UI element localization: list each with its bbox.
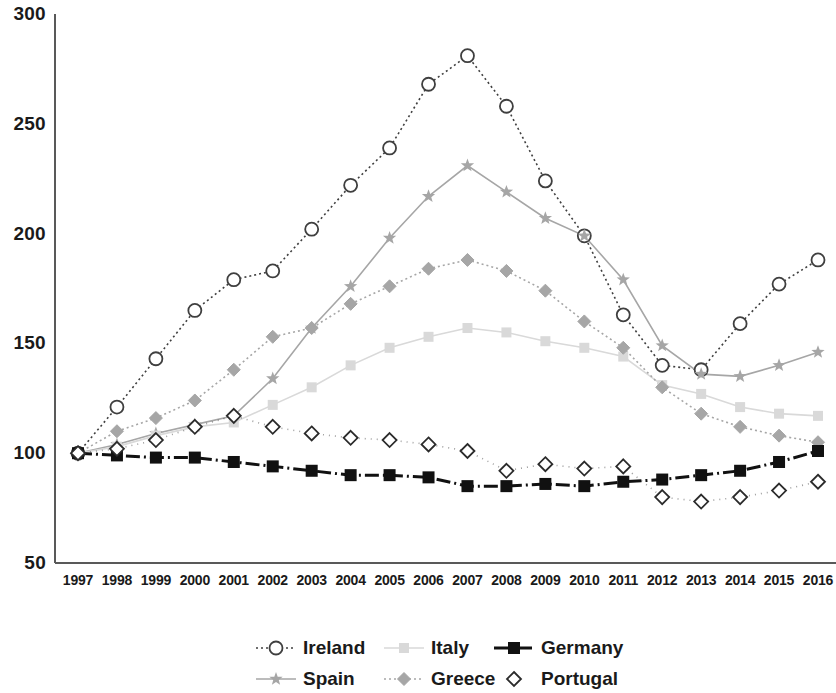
data-point-marker <box>149 412 162 425</box>
data-point-marker <box>733 490 747 504</box>
data-point-marker <box>346 360 356 370</box>
data-point-marker <box>578 315 591 328</box>
series-markers-germany <box>72 445 824 492</box>
data-point-marker <box>579 343 589 353</box>
series-line <box>78 56 818 453</box>
data-point-marker <box>267 460 279 472</box>
legend-label: Portugal <box>541 668 618 690</box>
data-point-marker <box>811 345 824 358</box>
data-point-marker <box>461 253 474 266</box>
data-point-marker <box>500 100 513 113</box>
data-point-marker <box>306 465 318 477</box>
data-point-marker <box>150 452 162 464</box>
legend-label: Spain <box>303 668 355 690</box>
y-axis-tick-label: 150 <box>0 332 46 354</box>
data-point-marker <box>422 189 435 202</box>
data-point-marker <box>813 411 823 421</box>
data-point-marker <box>772 358 785 371</box>
x-axis-tick-label: 2005 <box>368 572 412 588</box>
legend-label: Germany <box>541 637 623 659</box>
series-line <box>78 260 818 453</box>
data-point-marker <box>424 332 434 342</box>
x-axis-tick-label: 2015 <box>757 572 801 588</box>
y-axis-tick-label: 250 <box>0 113 46 135</box>
data-point-marker <box>266 264 279 277</box>
data-point-marker <box>461 49 474 62</box>
data-point-marker <box>774 409 784 419</box>
data-point-marker <box>383 280 396 293</box>
data-point-marker <box>539 478 551 490</box>
legend-label: Italy <box>431 637 469 659</box>
line-chart: 30025020015010050 1997199819992000200120… <box>0 0 836 693</box>
legend-item-germany[interactable]: Germany <box>493 637 638 659</box>
data-point-marker <box>344 431 358 445</box>
data-point-marker <box>540 336 550 346</box>
data-point-marker <box>773 456 785 468</box>
legend-marker-spain-icon <box>255 668 297 690</box>
x-axis-tick-label: 2007 <box>445 572 489 588</box>
legend-marker-germany-icon <box>493 637 535 659</box>
chart-legend: IrelandItalyGermanySpainGreecePortugal <box>255 632 675 693</box>
data-point-marker <box>772 484 786 498</box>
legend-item-portugal[interactable]: Portugal <box>493 668 638 690</box>
data-point-marker <box>734 317 747 330</box>
data-point-marker <box>305 223 318 236</box>
data-point-marker <box>385 343 395 353</box>
data-point-marker <box>812 253 825 266</box>
series-markers-italy <box>73 323 823 458</box>
x-axis-tick-label: 2016 <box>796 572 836 588</box>
data-point-marker <box>811 475 825 489</box>
data-point-marker <box>383 433 397 447</box>
data-point-marker <box>538 457 552 471</box>
data-point-marker <box>578 480 590 492</box>
data-point-marker <box>149 352 162 365</box>
data-point-marker <box>269 672 282 685</box>
data-point-marker <box>398 672 411 685</box>
x-axis-tick-label: 2003 <box>290 572 334 588</box>
data-point-marker <box>577 462 591 476</box>
data-point-marker <box>344 297 357 310</box>
series-italy <box>78 328 818 453</box>
x-axis-tick-label: 2001 <box>212 572 256 588</box>
legend-item-greece[interactable]: Greece <box>383 668 493 690</box>
data-point-marker <box>460 444 474 458</box>
data-point-marker <box>305 426 319 440</box>
data-point-marker <box>270 641 283 654</box>
data-point-marker <box>266 420 280 434</box>
data-point-marker <box>500 264 513 277</box>
legend-item-italy[interactable]: Italy <box>383 637 493 659</box>
legend-item-ireland[interactable]: Ireland <box>255 637 383 659</box>
data-point-marker <box>462 323 472 333</box>
data-point-marker <box>227 273 240 286</box>
y-axis-tick-label: 50 <box>0 552 46 574</box>
legend-marker-ireland-icon <box>255 637 297 659</box>
x-axis-tick-label: 1997 <box>56 572 100 588</box>
x-axis-tick-label: 1998 <box>95 572 139 588</box>
series-markers-spain <box>71 159 824 459</box>
data-point-marker <box>344 179 357 192</box>
data-point-marker <box>656 474 668 486</box>
legend-item-spain[interactable]: Spain <box>255 668 383 690</box>
legend-label: Ireland <box>303 637 365 659</box>
data-point-marker <box>499 464 513 478</box>
data-point-marker <box>734 420 747 433</box>
plot-area <box>0 0 836 693</box>
x-axis-tick-label: 2002 <box>251 572 295 588</box>
y-axis-tick-label: 300 <box>0 3 46 25</box>
data-point-marker <box>461 480 473 492</box>
data-point-marker <box>110 425 123 438</box>
data-point-marker <box>501 327 511 337</box>
x-axis-tick-label: 2008 <box>484 572 528 588</box>
data-point-marker <box>266 330 279 343</box>
x-axis-tick-label: 2013 <box>679 572 723 588</box>
y-axis-tick-label: 100 <box>0 442 46 464</box>
data-point-marker <box>399 643 409 653</box>
data-point-marker <box>500 480 512 492</box>
data-point-marker <box>508 642 520 654</box>
data-point-marker <box>507 672 521 686</box>
data-point-marker <box>617 308 630 321</box>
data-point-marker <box>188 394 201 407</box>
data-point-marker <box>110 401 123 414</box>
series-layer <box>71 49 825 508</box>
data-point-marker <box>188 304 201 317</box>
